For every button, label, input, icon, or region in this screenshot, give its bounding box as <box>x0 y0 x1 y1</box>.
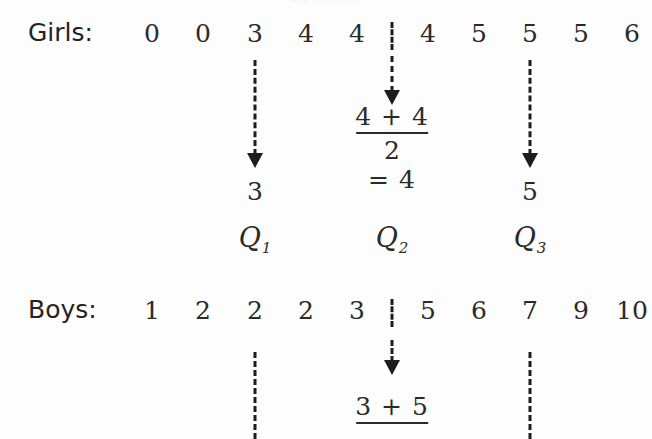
girls-value-4: 4 <box>349 19 365 48</box>
girls-q3-result: 5 <box>522 177 538 206</box>
girls-median-numerator: 4 + 4 <box>353 104 431 132</box>
quartile-label-q1: Q1 <box>239 222 272 257</box>
girls-value-5: 4 <box>420 19 436 48</box>
boys-value-6: 6 <box>471 296 487 325</box>
girls-q1-result: 3 <box>247 177 263 206</box>
girls-value-7: 5 <box>522 19 538 48</box>
boys-median-split-marker <box>391 299 394 327</box>
girls-median-split-marker <box>391 22 394 50</box>
girls-value-0: 0 <box>144 19 160 48</box>
boys-q1-arrow-shaft <box>254 352 257 439</box>
quartile-label-q3: Q3 <box>514 222 547 257</box>
boys-value-4: 3 <box>349 296 365 325</box>
boys-value-9: 10 <box>616 296 648 325</box>
girls-median-denominator: 2 <box>353 134 431 163</box>
boys-median-fraction: 3 + 5 <box>353 394 431 424</box>
quartile-label-q2-sub: 2 <box>399 239 409 257</box>
quartile-label-q2-base: Q <box>376 222 398 253</box>
girls-value-8: 5 <box>573 19 589 48</box>
girls-q3-arrowhead <box>522 153 538 168</box>
girls-q2-arrow-shaft <box>391 56 394 92</box>
quartile-label-q1-sub: 1 <box>262 239 272 257</box>
girls-value-1: 0 <box>195 19 211 48</box>
boys-data-row: Boys: 1 2 2 2 3 5 6 7 9 10 <box>0 295 652 329</box>
boys-value-0: 1 <box>144 296 160 325</box>
boys-row-label: Boys: <box>28 295 97 324</box>
boys-median-numerator: 3 + 5 <box>353 394 431 422</box>
girls-value-2: 3 <box>247 19 263 48</box>
girls-value-9: 6 <box>624 19 640 48</box>
boys-value-2: 2 <box>247 296 263 325</box>
girls-data-row: Girls: 0 0 3 4 4 4 5 5 5 6 <box>0 18 652 52</box>
boys-value-8: 9 <box>573 296 589 325</box>
boys-value-1: 2 <box>195 296 211 325</box>
boys-q2-arrowhead <box>384 360 400 375</box>
girls-value-6: 5 <box>471 19 487 48</box>
boys-value-3: 2 <box>298 296 314 325</box>
girls-q3-arrow-shaft <box>529 60 532 155</box>
girls-value-3: 4 <box>298 19 314 48</box>
quartile-label-q1-base: Q <box>239 222 261 253</box>
quartile-label-q3-base: Q <box>514 222 536 253</box>
girls-median-equals: = 4 <box>353 163 431 192</box>
quartile-label-q2: Q2 <box>376 222 409 257</box>
figure-canvas: Example Girls: 0 0 3 4 4 4 5 5 5 6 3 5 4… <box>0 0 652 439</box>
girls-q1-arrowhead <box>247 153 263 168</box>
girls-row-label: Girls: <box>28 18 93 47</box>
boys-q2-arrow-shaft <box>391 340 394 362</box>
boys-median-fraction-bar <box>356 422 428 424</box>
clipped-caption: Example <box>0 0 652 2</box>
boys-value-7: 7 <box>522 296 538 325</box>
boys-q3-arrow-shaft <box>529 352 532 439</box>
girls-median-fraction: 4 + 4 2 = 4 <box>353 104 431 192</box>
boys-value-5: 5 <box>420 296 436 325</box>
girls-q1-arrow-shaft <box>254 60 257 155</box>
quartile-label-q3-sub: 3 <box>537 239 547 257</box>
